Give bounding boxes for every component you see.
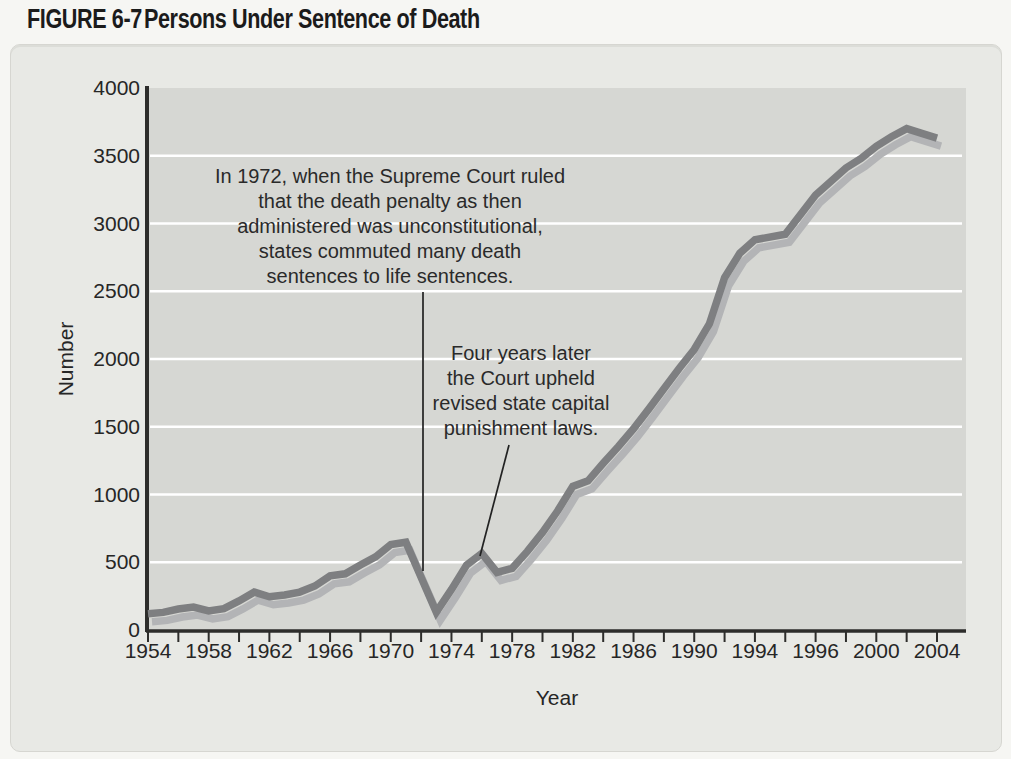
x-axis-title: Year (507, 686, 607, 710)
annotation-line: states commuted many death (170, 239, 610, 264)
annotation-1972: In 1972, when the Supreme Court ruledtha… (170, 164, 610, 289)
annotation-1976: Four years laterthe Court upheldrevised … (381, 341, 661, 441)
annotation-line: the Court upheld (381, 366, 661, 391)
annotation-line: that the death penalty as then (170, 189, 610, 214)
y-tick-label: 1000 (40, 483, 140, 507)
annotation-line: administered was unconstitutional, (170, 214, 610, 239)
page: FIGURE 6-7 Persons Under Sentence of Dea… (0, 0, 1011, 759)
y-tick-label: 3000 (40, 212, 140, 236)
y-tick-label: 2500 (40, 279, 140, 303)
x-tick-label: 2004 (897, 639, 977, 663)
annotation-line: punishment laws. (381, 416, 661, 441)
y-tick-label: 4000 (40, 76, 140, 100)
annotation-line: Four years later (381, 341, 661, 366)
y-tick-label: 1500 (40, 415, 140, 439)
y-axis-title: Number (54, 309, 78, 409)
y-tick-label: 500 (40, 550, 140, 574)
y-tick-label: 3500 (40, 144, 140, 168)
annotation-line: sentences to life sentences. (170, 264, 610, 289)
annotation-line: In 1972, when the Supreme Court ruled (170, 164, 610, 189)
annotation-line: revised state capital (381, 391, 661, 416)
